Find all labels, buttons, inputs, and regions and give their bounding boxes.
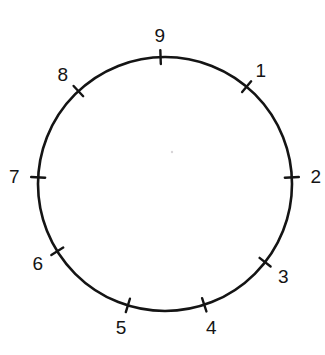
center-marker-dot [171,151,173,153]
tick-label-1: 1 [255,60,266,79]
tick-label-2: 2 [310,167,321,186]
tick-label-3: 3 [278,267,289,286]
tick-marks-group [31,50,299,312]
tick-label-8: 8 [57,65,68,84]
tick-label-5: 5 [116,318,127,337]
tick-label-9: 9 [155,26,166,45]
tick-label-4: 4 [206,317,217,336]
tick-label-6: 6 [32,254,43,273]
circle-diagram-canvas [0,0,325,355]
circle-outline [38,57,292,311]
circle-diagram-figure: 912345678 [0,0,325,355]
tick-label-7: 7 [9,167,20,186]
